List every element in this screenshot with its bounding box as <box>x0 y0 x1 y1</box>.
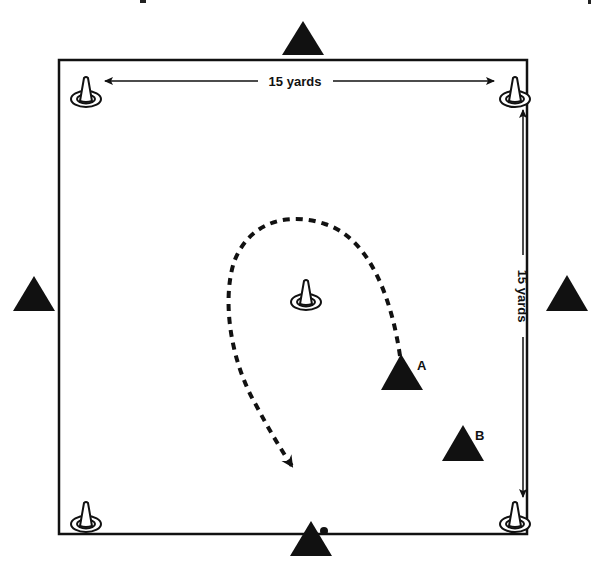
ball-icon <box>320 527 328 535</box>
cropped-header-fragment <box>140 0 591 4</box>
vertical-dimension-label: 15 yards <box>515 270 530 323</box>
drill-diagram: 15 yards 15 yards A B <box>0 0 599 562</box>
player-icon-right <box>546 275 588 311</box>
horizontal-dimension: 15 yards <box>105 74 494 89</box>
player-icon-top <box>282 21 324 55</box>
run-path-dashed <box>229 219 400 466</box>
cone-icon-top-right <box>500 77 530 107</box>
cone-icon-bottom-right <box>500 502 530 532</box>
cone-icon-bottom-left <box>71 502 101 532</box>
player-b-label: B <box>475 428 484 443</box>
cone-icon-center <box>291 280 321 310</box>
player-icon-bottom <box>290 521 332 556</box>
player-icon-left <box>13 276 55 311</box>
horizontal-dimension-label: 15 yards <box>269 74 322 89</box>
cone-icon-top-left <box>71 77 101 107</box>
player-a-label: A <box>417 358 427 373</box>
